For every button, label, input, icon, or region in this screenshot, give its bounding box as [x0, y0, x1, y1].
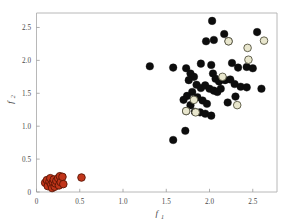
- point-cream-cluster-7: [182, 107, 190, 115]
- y-tick-label-5: 2.5: [22, 24, 31, 32]
- point-black-cluster-2: [220, 30, 228, 38]
- point-black-cluster-6: [146, 63, 154, 71]
- x-axis-title-subscript: 1: [161, 214, 164, 220]
- point-black-cluster-5: [202, 38, 210, 46]
- x-tick-label-4: 2.0: [205, 198, 214, 206]
- y-tick-label-3: 1.5: [22, 90, 31, 98]
- figure-background: [0, 0, 286, 223]
- point-black-cluster-33: [217, 85, 225, 93]
- point-cream-cluster-4: [219, 73, 227, 81]
- x-tick-label-0: 0: [35, 198, 39, 206]
- point-black-cluster-46: [182, 127, 190, 135]
- point-black-cluster-48: [224, 99, 232, 107]
- y-axis-title-subscript: 2: [10, 95, 16, 98]
- point-cream-cluster-1: [244, 44, 252, 52]
- y-tick-label-0: 0: [27, 189, 31, 197]
- point-black-cluster-0: [208, 17, 216, 25]
- point-black-cluster-3: [253, 28, 261, 36]
- point-black-cluster-9: [197, 60, 205, 68]
- point-black-cluster-47: [169, 136, 177, 144]
- point-black-cluster-7: [169, 64, 177, 72]
- point-black-cluster-36: [180, 96, 188, 104]
- y-tick-label-2: 1.0: [22, 123, 31, 131]
- y-tick-label-1: 0.5: [22, 156, 31, 164]
- y-tick-label-4: 2.0: [22, 57, 31, 65]
- x-tick-label-1: 0.5: [75, 198, 84, 206]
- point-cream-cluster-3: [245, 56, 253, 64]
- point-red-cluster-18: [78, 174, 86, 182]
- point-black-cluster-1: [210, 36, 218, 44]
- point-cream-cluster-0: [225, 38, 233, 46]
- point-black-cluster-49: [232, 93, 240, 101]
- x-tick-label-5: 2.5: [248, 198, 257, 206]
- point-cream-cluster-2: [260, 37, 268, 45]
- point-black-cluster-14: [249, 64, 257, 72]
- point-black-cluster-17: [185, 76, 193, 84]
- point-cream-cluster-5: [233, 101, 241, 109]
- point-red-cluster-17: [60, 180, 68, 188]
- point-black-cluster-39: [203, 100, 211, 108]
- point-cream-cluster-6: [190, 96, 198, 104]
- x-tick-label-3: 1.5: [162, 198, 171, 206]
- point-red-cluster-16: [59, 173, 67, 181]
- point-black-cluster-44: [207, 112, 215, 120]
- x-tick-label-2: 1.0: [119, 198, 128, 206]
- plot-canvas: 00.51.01.52.02.5 00.51.01.52.02.5 f1 f2: [0, 0, 286, 223]
- point-black-cluster-12: [234, 64, 242, 72]
- point-black-cluster-25: [243, 84, 251, 92]
- point-black-cluster-26: [258, 85, 266, 93]
- scatter-plot-figure: 00.51.01.52.02.5 00.51.01.52.02.5 f1 f2: [0, 0, 286, 223]
- point-black-cluster-10: [207, 61, 215, 69]
- point-cream-cluster-8: [192, 109, 200, 117]
